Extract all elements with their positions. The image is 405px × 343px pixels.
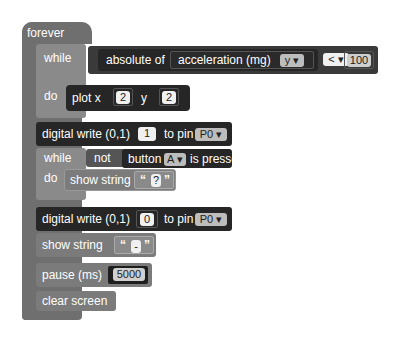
pin-dropdown[interactable]: P0 ▾ <box>195 128 227 141</box>
open-quote: “ <box>120 238 126 252</box>
pause-value[interactable]: 5000 <box>113 268 145 281</box>
absolute-of-label: absolute of <box>106 53 165 67</box>
while-label: while <box>44 151 71 165</box>
digital-write-label: digital write (0,1) <box>42 127 130 141</box>
plot-y-value[interactable]: 2 <box>162 91 176 104</box>
to-pin-label: to pin <box>164 127 193 141</box>
to-pin-label: to pin <box>164 212 193 226</box>
text-value[interactable]: - <box>131 240 141 253</box>
threshold-value[interactable]: 100 <box>347 54 371 67</box>
clear-screen-label: clear screen <box>42 294 107 308</box>
acceleration-label: acceleration (mg) <box>178 53 271 67</box>
close-quote: ” <box>164 173 170 187</box>
digital-write-value[interactable]: 1 <box>138 127 156 141</box>
not-label: not <box>94 151 111 165</box>
digital-write-label: digital write (0,1) <box>42 212 130 226</box>
button-dropdown[interactable]: A ▾ <box>164 153 186 166</box>
button-label: button <box>128 152 161 166</box>
while-label: while <box>44 51 71 65</box>
do-label: do <box>44 89 57 103</box>
show-string-label: show string <box>70 173 131 187</box>
plot-y-label: y <box>141 91 147 105</box>
pin-dropdown[interactable]: P0 ▾ <box>195 213 227 226</box>
digital-write-value[interactable]: 0 <box>140 213 154 226</box>
show-string-label: show string <box>42 238 103 252</box>
close-quote: ” <box>144 238 150 252</box>
plot-x-label: plot x <box>72 91 101 105</box>
text-value[interactable]: ? <box>151 174 161 187</box>
forever-label: forever <box>27 26 64 40</box>
pause-label: pause (ms) <box>42 268 102 282</box>
is-pressed-label: is pressed <box>190 152 245 166</box>
plot-x-value[interactable]: 2 <box>116 91 130 104</box>
do-label: do <box>44 171 57 185</box>
open-quote: “ <box>140 173 146 187</box>
axis-dropdown[interactable]: y ▾ <box>280 54 304 67</box>
